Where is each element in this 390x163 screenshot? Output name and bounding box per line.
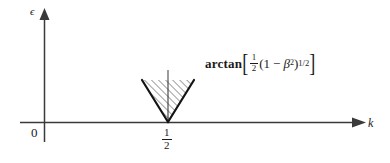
one-half-fraction: 1 2 (162, 127, 172, 151)
hatched-wedge (142, 70, 194, 122)
open-bracket-icon: [ (242, 52, 248, 74)
origin-label: 0 (31, 126, 38, 139)
power-one-half: 1/2 (298, 59, 309, 68)
coefficient-fraction: 1 2 (250, 53, 259, 73)
arctan-wedge-figure: ϵ 0 k 1 2 arctan [ 1 2 ( 1 − β 2 ) 1/2 ] (0, 0, 390, 163)
close-bracket-icon: ] (309, 52, 315, 74)
x-axis-arrowhead (352, 118, 366, 128)
one-term: 1 (264, 57, 271, 70)
x-axis (20, 118, 366, 128)
function-name-label: arctan (205, 57, 242, 70)
fraction-denominator: 2 (162, 139, 172, 152)
minus-sign: − (273, 57, 280, 70)
coefficient-denominator: 2 (250, 63, 259, 73)
fraction-numerator: 1 (162, 127, 172, 139)
x-tick-label-one-half: 1 2 (162, 127, 172, 151)
arctan-annotation: arctan [ 1 2 ( 1 − β 2 ) 1/2 ] (205, 52, 316, 74)
coefficient-numerator: 1 (250, 53, 259, 62)
y-axis-label: ϵ (30, 6, 34, 17)
figure-canvas (0, 0, 390, 163)
x-axis-label: k (368, 117, 373, 129)
y-axis-arrowhead (40, 8, 50, 20)
